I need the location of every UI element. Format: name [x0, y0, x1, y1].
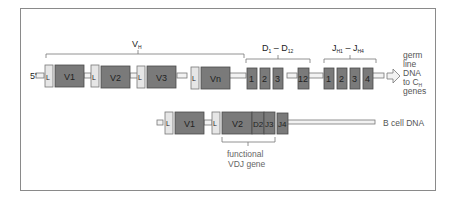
vh-group-label: VH — [132, 39, 142, 50]
leader-label: L — [213, 120, 217, 127]
leader-label: L — [138, 74, 142, 81]
v1-label: V1 — [64, 72, 75, 82]
leader-label: L — [166, 120, 170, 127]
bcell-dna-row: L V1 L V2 D2 J3 J4 B cell DNA functional… — [157, 112, 424, 169]
bcell-v1-label: V1 — [184, 119, 195, 129]
bcell-v2-label: V2 — [232, 119, 243, 129]
leader-label: L — [46, 74, 50, 81]
germline-dna-row: 5' VH L V1 L V2 L V3 L Vn D1 – D12 1 2 3… — [30, 39, 426, 96]
bcell-j3-label: J3 — [265, 120, 274, 129]
d12-label: 12 — [298, 74, 308, 84]
five-prime-label: 5' — [30, 71, 37, 81]
j-group-label: JH1 – JH4 — [332, 43, 364, 54]
bcell-j4-label: J4 — [278, 120, 287, 129]
j4-label: 4 — [365, 74, 370, 84]
j2-label: 2 — [339, 74, 344, 84]
functional-vdj-label-line2: VDJ gene — [228, 159, 266, 169]
bcell-d2-label: D2 — [253, 120, 264, 129]
v2-label: V2 — [110, 73, 121, 83]
functional-vdj-label-line1: functional — [227, 149, 263, 159]
leader-label: L — [92, 74, 96, 81]
svg-text:genes: genes — [403, 86, 426, 96]
gene-rearrangement-diagram: 5' VH L V1 L V2 L V3 L Vn D1 – D12 1 2 3… — [0, 0, 455, 204]
d3-label: 3 — [275, 74, 280, 84]
d1-label: 1 — [249, 74, 254, 84]
arrow-right-icon — [387, 69, 400, 83]
v3-label: V3 — [156, 73, 167, 83]
germline-side-label: germ line DNA to CH genes — [403, 50, 426, 96]
leader-label: L — [192, 75, 196, 82]
bcell-dna-label: B cell DNA — [383, 118, 424, 128]
d2-label: 2 — [262, 74, 267, 84]
d-group-label: D1 – D12 — [262, 43, 294, 54]
j3-label: 3 — [352, 74, 357, 84]
j1-label: 1 — [326, 74, 331, 84]
vn-label: Vn — [210, 74, 221, 84]
